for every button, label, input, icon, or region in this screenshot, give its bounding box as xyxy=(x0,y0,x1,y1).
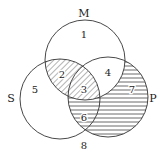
region-number-5: 5 xyxy=(32,84,38,95)
region-number-3: 3 xyxy=(81,84,87,95)
region-number-1: 1 xyxy=(81,29,87,40)
region-number-4: 4 xyxy=(105,67,111,78)
venn-diagram: M S P 1 2 3 4 5 6 7 8 xyxy=(0,0,168,155)
set-label-p: P xyxy=(149,92,157,105)
set-label-m: M xyxy=(78,7,89,20)
region-number-2: 2 xyxy=(59,69,65,80)
region-number-6: 6 xyxy=(81,112,87,123)
region-number-8: 8 xyxy=(81,140,87,151)
region-number-7: 7 xyxy=(129,84,135,95)
set-label-s: S xyxy=(7,92,15,105)
